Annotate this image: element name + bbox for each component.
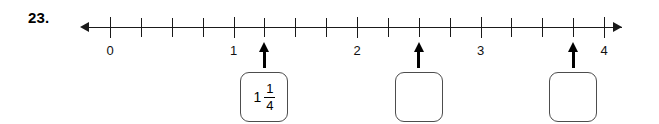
tick-mark xyxy=(511,18,512,37)
worksheet-problem: 23. 01234 114 xyxy=(0,0,659,124)
tick-mark xyxy=(573,18,574,37)
left-arrow-icon xyxy=(80,22,89,32)
tick-mark xyxy=(172,18,173,37)
fraction: 14 xyxy=(264,82,275,112)
whole-part: 1 xyxy=(253,90,261,104)
tick-mark xyxy=(419,18,420,37)
tick-mark xyxy=(450,18,451,37)
up-arrow-icon xyxy=(257,42,271,68)
tick-mark xyxy=(326,18,327,37)
axis-label: 2 xyxy=(353,44,360,57)
tick-mark xyxy=(203,18,204,37)
tick-mark xyxy=(295,18,296,37)
up-arrow-shaft xyxy=(572,50,575,68)
tick-mark xyxy=(264,18,265,37)
answer-box[interactable]: 114 xyxy=(240,72,288,122)
up-arrow-shaft xyxy=(417,50,420,68)
right-arrow-icon xyxy=(613,22,622,32)
tick-mark xyxy=(604,17,605,38)
tick-mark xyxy=(234,17,235,38)
answer-box[interactable] xyxy=(395,72,443,122)
tick-mark xyxy=(388,18,389,37)
axis-label: 3 xyxy=(477,44,484,57)
axis-label: 1 xyxy=(230,44,237,57)
up-arrow-shaft xyxy=(263,50,266,68)
axis-label: 0 xyxy=(106,44,113,57)
tick-mark xyxy=(542,18,543,37)
tick-mark xyxy=(357,17,358,38)
answer-box[interactable] xyxy=(549,72,597,122)
up-arrow-icon xyxy=(566,42,580,68)
number-line: 01234 114 xyxy=(0,0,659,124)
tick-mark xyxy=(141,18,142,37)
tick-mark xyxy=(481,17,482,38)
fraction-numerator: 1 xyxy=(265,82,274,97)
axis-label: 4 xyxy=(600,44,607,57)
tick-mark xyxy=(110,17,111,38)
mixed-number: 114 xyxy=(253,82,275,112)
fraction-denominator: 4 xyxy=(265,98,274,113)
up-arrow-icon xyxy=(412,42,426,68)
